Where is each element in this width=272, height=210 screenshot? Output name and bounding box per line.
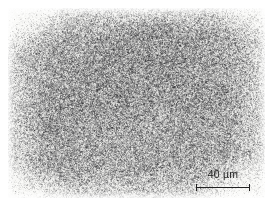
micrograph-figure: 40 µm [0,0,272,210]
micrograph-image-plate [8,8,265,198]
micrograph-texture-canvas [8,8,265,198]
